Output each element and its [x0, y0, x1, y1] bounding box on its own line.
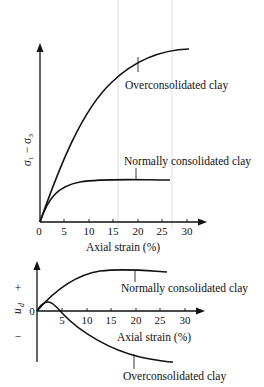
bottom-y-label-u: u [11, 308, 23, 314]
top-y-axis-arrow-icon [37, 43, 44, 52]
top-curve-overconsolidated [40, 49, 189, 222]
bottom-x-axis-arrow-icon [196, 308, 205, 315]
top-x-axis-label: Axial strain (%) [86, 241, 160, 254]
bottom-y-label-sub: d [17, 302, 26, 307]
bottom-tick-label: 15 [106, 314, 118, 326]
top-tick-label: 0 [36, 225, 42, 237]
bottom-chart: 5 10 15 20 25 30 Axial strain (%) + 0 − … [11, 261, 248, 383]
top-label-overconsolidated: Overconsolidated clay [125, 79, 228, 92]
top-tick-label: 25 [157, 225, 169, 237]
bottom-zero-marker: 0 [29, 305, 35, 317]
top-curve-normally-consolidated [40, 180, 170, 223]
bottom-plus-marker: + [15, 282, 22, 294]
top-x-axis-arrow-icon [198, 219, 207, 226]
bottom-minus-marker: − [15, 330, 22, 342]
top-y-axis-label: σ₁ − σ₃ [21, 134, 33, 167]
top-tick-label: 30 [182, 225, 194, 237]
bottom-label-overconsolidated: Overconsolidated clay [123, 370, 226, 383]
bottom-y-axis-arrow-icon [34, 261, 41, 270]
top-tick-label: 15 [108, 225, 120, 237]
bottom-tick-label: 25 [155, 314, 167, 326]
figure: 0 5 10 15 20 25 30 Axial strain (%) σ₁ −… [0, 0, 264, 387]
top-tick-label: 10 [84, 225, 96, 237]
top-tick-label: 20 [133, 225, 145, 237]
bottom-tick-label: 30 [180, 314, 192, 326]
bottom-tick-label: 20 [131, 314, 143, 326]
bottom-y-axis-label: u d [11, 302, 26, 314]
bottom-tick-label: 10 [82, 314, 94, 326]
top-chart: 0 5 10 15 20 25 30 Axial strain (%) σ₁ −… [21, 43, 251, 254]
top-tick-label: 5 [61, 225, 67, 237]
top-label-normally-consolidated: Normally consolidated clay [124, 155, 251, 168]
bottom-x-axis-label: Axial strain (%) [117, 331, 191, 344]
bottom-label-normally-consolidated: Normally consolidated clay [121, 282, 248, 295]
